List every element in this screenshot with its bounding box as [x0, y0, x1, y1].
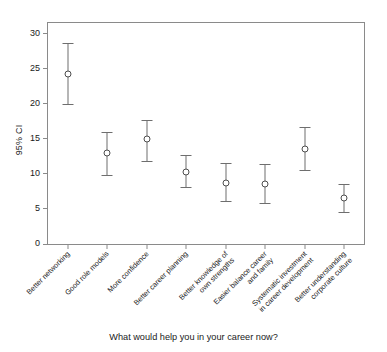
data-point-marker[interactable] — [222, 179, 229, 186]
x-axis-tick-mark — [146, 244, 147, 249]
data-point-marker[interactable] — [64, 70, 71, 77]
y-axis-tick-mark — [43, 68, 48, 69]
error-bar-lower-cap — [181, 187, 192, 188]
y-axis-tick-label: 20 — [30, 98, 40, 108]
x-axis-caption: What would help you in your career now? — [0, 332, 387, 342]
x-axis-tick-mark — [344, 244, 345, 249]
data-point-marker[interactable] — [143, 136, 150, 143]
error-bar-upper-cap — [62, 43, 73, 44]
y-axis-tick-mark — [43, 208, 48, 209]
y-axis-title: 95% CI — [10, 110, 28, 170]
error-bar-lower-cap — [299, 170, 310, 171]
x-axis-category-label: Good role models — [64, 250, 111, 297]
plot-area: 051015202530 — [47, 22, 365, 245]
x-axis-tick-mark — [186, 244, 187, 249]
error-bar-lower-cap — [339, 212, 350, 213]
y-axis-tick-mark — [43, 244, 48, 245]
x-axis-tick-mark — [107, 244, 108, 249]
y-axis-tick-label: 15 — [30, 133, 40, 143]
y-axis-tick-label: 30 — [30, 28, 40, 38]
chart-figure: 95% CI 051015202530 Better networkingGoo… — [0, 0, 387, 352]
error-bar-lower-cap — [102, 175, 113, 176]
error-bar-lower-cap — [62, 104, 73, 105]
error-bar-upper-cap — [299, 127, 310, 128]
error-bar-upper-cap — [220, 163, 231, 164]
error-bar-upper-cap — [102, 132, 113, 133]
error-bar-lower-cap — [220, 201, 231, 202]
data-point-marker[interactable] — [301, 145, 308, 152]
y-axis-title-text: 95% CI — [14, 125, 24, 156]
x-axis-tick-mark — [225, 244, 226, 249]
error-bar-lower-cap — [260, 203, 271, 204]
y-axis-tick-mark — [43, 33, 48, 34]
data-point-marker[interactable] — [262, 180, 269, 187]
data-point-marker[interactable] — [183, 168, 190, 175]
y-axis-tick-mark — [43, 103, 48, 104]
y-axis-tick-label: 0 — [35, 238, 40, 248]
x-axis-tick-mark — [265, 244, 266, 249]
x-axis-tick-mark — [304, 244, 305, 249]
error-bar-upper-cap — [260, 164, 271, 165]
error-bar-upper-cap — [339, 184, 350, 185]
error-bar-lower-cap — [141, 161, 152, 162]
error-bar-upper-cap — [181, 155, 192, 156]
y-axis-tick-label: 10 — [30, 168, 40, 178]
data-point-marker[interactable] — [341, 194, 348, 201]
y-axis-tick-mark — [43, 173, 48, 174]
y-axis-tick-mark — [43, 138, 48, 139]
error-bar-upper-cap — [141, 120, 152, 121]
y-axis-tick-label: 25 — [30, 63, 40, 73]
x-axis-tick-mark — [67, 244, 68, 249]
y-axis-tick-label: 5 — [35, 203, 40, 213]
data-point-marker[interactable] — [104, 149, 111, 156]
